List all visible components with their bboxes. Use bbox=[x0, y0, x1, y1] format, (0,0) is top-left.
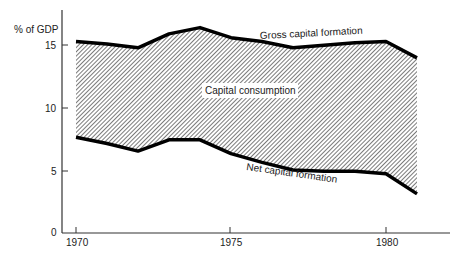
y-tick-5: 5 bbox=[51, 166, 57, 177]
x-ticks bbox=[76, 227, 386, 233]
x-tick-1970: 1970 bbox=[66, 237, 89, 248]
gross-capital-formation-label: Gross capital formation bbox=[260, 25, 363, 41]
y-tick-0: 0 bbox=[51, 227, 57, 238]
y-tick-10: 10 bbox=[45, 103, 57, 114]
capital-consumption-label: Capital consumption bbox=[205, 85, 296, 96]
y-tick-15: 15 bbox=[45, 40, 57, 51]
x-tick-1975: 1975 bbox=[220, 237, 243, 248]
y-ticks bbox=[62, 45, 68, 171]
chart: % of GDP 15 10 5 0 1970 1975 1980 Gross … bbox=[0, 0, 452, 259]
y-axis-label: % of GDP bbox=[14, 24, 59, 35]
x-tick-1980: 1980 bbox=[376, 237, 399, 248]
